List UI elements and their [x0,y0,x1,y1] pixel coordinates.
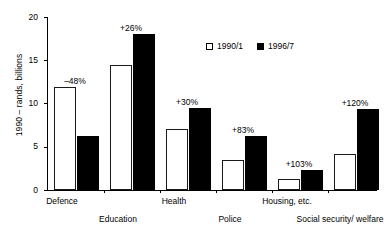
y-tick-label-15: 15 [16,56,38,65]
bar-defence-1990 [54,87,76,190]
bar-health-1996 [189,108,211,190]
y-tick-label-5: 5 [16,142,38,151]
bar-annotation-social-security: +120% [329,99,381,108]
legend-swatch-white-square-icon [206,43,213,50]
bar-social-security-1990 [334,154,356,190]
x-tick-mark-3 [216,190,217,193]
bar-police-1990 [222,160,244,190]
legend-label-1996: 1996/7 [268,42,294,51]
y-tick-label-20: 20 [16,13,38,22]
bar-group-social-security: +120% [334,17,384,190]
x-label-health: Health [138,196,210,206]
y-tick-label-0: 0 [16,186,38,195]
bar-annotation-police: +83% [219,126,267,135]
legend: 1990/1 1996/7 [206,42,294,51]
bar-health-1990 [166,129,188,190]
y-tick-label-10: 10 [16,99,38,108]
legend-swatch-black-square-icon [257,43,264,50]
y-axis-tick-labels: 20 15 10 5 0 [16,0,38,247]
x-tick-mark-4 [272,190,273,193]
x-label-education: Education [82,214,154,224]
x-tick-mark-5 [328,190,329,193]
x-label-defence: Defence [26,196,98,206]
bar-annotation-housing: +103% [273,160,325,169]
bar-group-education: +26% [110,17,162,190]
bar-housing-1996 [301,170,323,190]
legend-item-1996: 1996/7 [257,42,294,51]
bar-education-1996 [133,34,155,190]
x-label-housing: Housing, etc. [244,196,330,206]
bar-annotation-health: +30% [163,98,211,107]
x-label-police: Police [194,214,266,224]
legend-item-1990: 1990/1 [206,42,243,51]
legend-label-1990: 1990/1 [217,42,243,51]
bar-defence-1996 [77,136,99,190]
x-tick-mark-2 [160,190,161,193]
bar-social-security-1996 [357,109,379,190]
bar-annotation-defence: –48% [51,77,99,86]
bar-police-1996 [245,136,267,190]
bar-annotation-education: +26% [107,24,155,33]
x-label-social-security: Social security/ welfare [296,214,384,225]
x-tick-mark-1 [104,190,105,193]
bar-housing-1990 [278,179,300,190]
bar-chart: 1990 – rands, billions 20 15 10 5 0 –48%… [0,0,384,247]
bar-group-defence: –48% [54,17,106,190]
bar-education-1990 [110,65,132,190]
